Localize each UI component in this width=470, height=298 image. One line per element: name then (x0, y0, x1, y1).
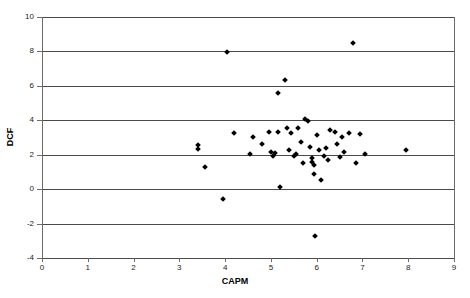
y-axis-tick-label: -4 (0, 254, 34, 262)
y-axis-tick (37, 120, 42, 121)
data-point (275, 129, 281, 135)
y-axis-tick-label: 6 (0, 82, 34, 90)
grid-line-horizontal (42, 86, 454, 87)
grid-line-horizontal (42, 224, 454, 225)
plot-right-border (454, 17, 455, 258)
data-point (312, 234, 318, 240)
y-axis-tick-label: 2 (0, 151, 34, 159)
data-point (307, 144, 313, 150)
x-axis-tick-label: 7 (352, 263, 372, 272)
x-axis-tick (225, 258, 226, 262)
data-point (296, 125, 302, 131)
data-point (298, 139, 304, 145)
x-axis-line (42, 258, 454, 259)
data-point (259, 141, 265, 147)
x-axis-tick-label: 5 (261, 263, 281, 272)
plot-area (42, 17, 454, 258)
grid-line-horizontal (42, 51, 454, 52)
scatter-chart: CAPM DCF -4-202468100123456789 (0, 0, 470, 298)
data-point (195, 146, 201, 152)
y-axis-tick (37, 189, 42, 190)
data-point (247, 151, 253, 157)
data-point (289, 130, 295, 136)
x-axis-tick (134, 258, 135, 262)
data-point (275, 90, 281, 96)
x-axis-tick-label: 8 (398, 263, 418, 272)
y-axis-tick (37, 51, 42, 52)
y-axis-tick (37, 86, 42, 87)
x-axis-tick-label: 9 (444, 263, 464, 272)
data-point (316, 147, 322, 153)
x-axis-tick-label: 6 (307, 263, 327, 272)
data-point (362, 151, 368, 157)
y-axis-tick (37, 224, 42, 225)
data-point (231, 130, 237, 136)
y-axis-tick-label: 4 (0, 116, 34, 124)
x-axis-tick-label: 3 (169, 263, 189, 272)
y-axis-tick-label: 8 (0, 47, 34, 55)
data-point (334, 142, 340, 148)
data-point (321, 153, 327, 159)
grid-line-horizontal (42, 120, 454, 121)
data-point (293, 151, 299, 157)
x-axis-tick-label: 0 (32, 263, 52, 272)
x-axis-tick (271, 258, 272, 262)
data-point (312, 171, 318, 177)
y-axis-tick (37, 17, 42, 18)
data-point (346, 130, 352, 136)
y-axis-tick-label: 10 (0, 13, 34, 21)
y-axis-tick-label: 0 (0, 185, 34, 193)
x-axis-tick (454, 258, 455, 262)
data-point (305, 118, 311, 124)
data-point (314, 132, 320, 138)
data-point (250, 134, 256, 140)
data-point (323, 145, 329, 151)
x-axis-tick-label: 4 (215, 263, 235, 272)
data-point (312, 162, 318, 168)
x-axis-title: CAPM (0, 276, 470, 286)
x-axis-tick (179, 258, 180, 262)
x-axis-tick-label: 2 (124, 263, 144, 272)
y-axis-tick (37, 155, 42, 156)
data-point (357, 131, 363, 137)
data-point (353, 160, 359, 166)
data-point (332, 129, 338, 135)
data-point (286, 147, 292, 153)
x-axis-tick (408, 258, 409, 262)
data-point (266, 129, 272, 135)
x-axis-tick (42, 258, 43, 262)
data-point (220, 197, 226, 203)
y-axis-line (42, 17, 43, 258)
x-axis-tick-label: 1 (78, 263, 98, 272)
data-point (300, 160, 306, 166)
grid-line-horizontal (42, 189, 454, 190)
x-axis-tick (317, 258, 318, 262)
x-axis-tick (362, 258, 363, 262)
data-point (337, 154, 343, 160)
data-point (282, 77, 288, 83)
data-point (325, 157, 331, 163)
data-point (318, 177, 324, 183)
data-point (284, 125, 290, 131)
x-axis-tick (88, 258, 89, 262)
data-point (403, 148, 409, 154)
data-point (339, 134, 345, 140)
grid-line-horizontal (42, 17, 454, 18)
data-point (225, 49, 231, 55)
y-axis-tick-label: -2 (0, 220, 34, 228)
data-point (202, 164, 208, 170)
data-point (350, 40, 356, 46)
